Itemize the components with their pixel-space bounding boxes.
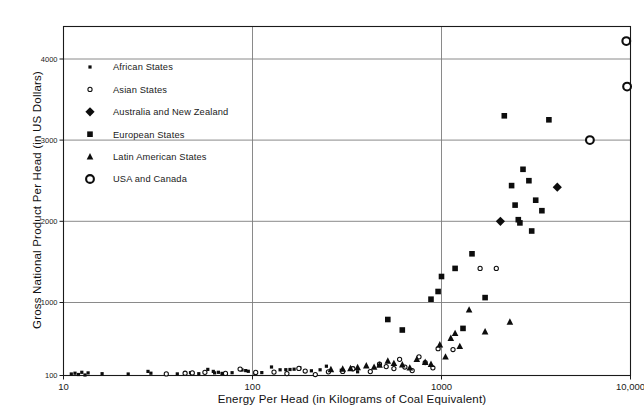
ytick-label: 1000 — [41, 298, 58, 307]
data-point — [407, 364, 414, 370]
xtick-label: 10 — [58, 381, 69, 392]
data-point — [553, 183, 562, 192]
data-point — [502, 113, 508, 119]
data-point — [623, 83, 631, 91]
ytick-label: 100 — [45, 371, 58, 380]
plot-frame — [64, 27, 631, 376]
data-point — [482, 295, 488, 301]
legend-label: Australia and New Zealand — [113, 107, 228, 117]
data-point — [70, 372, 73, 375]
vertical-gridlines — [253, 27, 442, 376]
data-point — [238, 367, 242, 371]
data-point — [279, 368, 282, 371]
data-point — [293, 368, 296, 371]
xtick-label: 10,000 — [616, 381, 644, 392]
data-point — [368, 370, 372, 374]
data-point — [303, 369, 307, 373]
data-point — [176, 372, 179, 375]
data-point — [80, 371, 83, 374]
data-point — [392, 367, 396, 371]
legend-marker-icon — [87, 153, 94, 159]
data-point — [363, 362, 370, 368]
data-point — [270, 365, 273, 368]
data-point — [149, 372, 152, 375]
plot-svg: 1001000200030004000 10100100010,000 Afri… — [0, 0, 644, 420]
scatter-chart: 1001000200030004000 10100100010,000 Afri… — [0, 0, 644, 420]
data-point — [398, 357, 402, 361]
data-point — [272, 370, 276, 374]
data-point — [127, 372, 130, 375]
data-point — [526, 178, 532, 184]
data-point — [442, 353, 449, 359]
series-group — [164, 266, 498, 376]
x-axis-title: Energy Per Head (in Kilograms of Coal Eq… — [218, 393, 487, 405]
data-point — [400, 327, 406, 333]
legend-label: European States — [113, 130, 185, 140]
data-point — [190, 371, 194, 375]
ytick-label: 2000 — [41, 217, 58, 226]
data-point — [494, 266, 498, 270]
legend-item[interactable]: USA and Canada — [86, 174, 188, 184]
ytick-label: 4000 — [41, 55, 58, 64]
data-point — [385, 357, 392, 363]
xtick-label: 1000 — [431, 381, 452, 392]
data-point — [457, 343, 464, 349]
legend-item[interactable]: African States — [88, 62, 173, 72]
legend-item[interactable]: Australia and New Zealand — [85, 107, 228, 117]
data-point — [428, 361, 435, 367]
data-point — [285, 372, 289, 376]
data-point — [77, 373, 80, 376]
data-point — [586, 136, 594, 144]
data-point — [451, 347, 455, 351]
data-point — [247, 370, 250, 373]
data-point — [452, 266, 458, 272]
xtick-label: 100 — [245, 381, 261, 392]
data-point — [512, 202, 518, 208]
data-point — [391, 360, 398, 366]
data-point — [356, 370, 359, 373]
data-point — [310, 369, 313, 372]
data-point — [284, 368, 287, 371]
series-group — [586, 37, 631, 144]
data-point — [435, 289, 441, 295]
legend-label: Asian States — [113, 85, 167, 95]
data-point — [452, 330, 459, 336]
legend-marker-icon — [87, 131, 93, 137]
data-point — [533, 197, 539, 203]
legend: African StatesAsian StatesAustralia and … — [85, 62, 228, 184]
legend-marker-icon — [88, 87, 92, 91]
legend-marker-icon — [85, 107, 94, 116]
legend-item[interactable]: Asian States — [88, 85, 167, 95]
data-point — [469, 251, 475, 257]
data-point — [460, 326, 466, 332]
data-point — [439, 274, 445, 280]
data-point — [520, 167, 526, 173]
data-point — [197, 372, 200, 375]
data-point — [146, 370, 149, 373]
y-axis-tick-labels: 1001000200030004000 — [41, 55, 58, 381]
data-point — [73, 372, 76, 375]
data-point — [509, 183, 515, 189]
data-point — [260, 371, 263, 374]
data-point — [371, 363, 378, 369]
data-point — [254, 370, 258, 374]
data-point — [164, 372, 168, 376]
data-point — [496, 217, 505, 226]
data-point — [231, 371, 234, 374]
data-point — [87, 371, 90, 374]
series-group — [385, 113, 552, 333]
data-point — [319, 368, 322, 371]
legend-item[interactable]: European States — [87, 130, 185, 140]
data-point — [339, 365, 346, 372]
data-point — [478, 266, 482, 270]
data-point — [539, 208, 545, 214]
data-point — [213, 371, 216, 374]
data-point — [217, 371, 220, 374]
legend-item[interactable]: Latin American States — [87, 152, 207, 162]
data-point — [313, 372, 317, 376]
legend-label: USA and Canada — [113, 174, 188, 184]
legend-label: Latin American States — [113, 152, 207, 162]
data-point — [622, 37, 630, 45]
legend-marker-icon — [88, 65, 91, 68]
data-point — [83, 373, 86, 376]
